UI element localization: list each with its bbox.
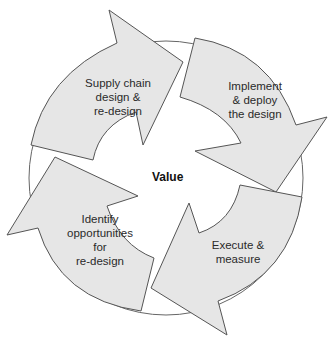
step-label-execute: Execute & measure <box>198 238 278 266</box>
step-label-identify: Identify opportunities for re-design <box>50 212 150 268</box>
center-label: Value <box>152 170 183 184</box>
step-label-design: Supply chain design & re-design <box>68 76 168 118</box>
step-label-implement: Implement & deploy the design <box>215 79 295 121</box>
